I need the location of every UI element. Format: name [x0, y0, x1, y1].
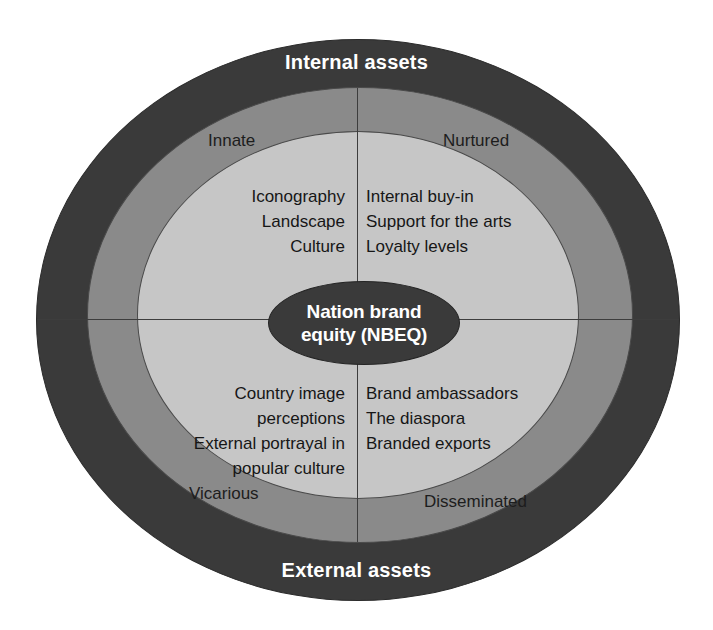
divider-horizontal-right — [458, 319, 679, 320]
list-item: Loyalty levels — [366, 234, 512, 259]
list-item: Branded exports — [366, 431, 518, 456]
item-list-innate: IconographyLandscapeCulture — [251, 184, 345, 259]
quadrant-label-innate: Innate — [208, 131, 255, 151]
quadrant-label-vicarious: Vicarious — [189, 484, 259, 504]
list-item: Culture — [251, 234, 345, 259]
item-list-vicarious: Country imageperceptionsExternal portray… — [194, 381, 345, 481]
banner-label-internal-assets: Internal assets — [0, 51, 713, 74]
center-label-line2: equity (NBEQ) — [301, 324, 427, 345]
divider-vertical-bottom — [357, 362, 358, 542]
item-list-disseminated: Brand ambassadorsThe diasporaBranded exp… — [366, 381, 518, 456]
list-item: The diaspora — [366, 406, 518, 431]
list-item: Country image — [194, 381, 345, 406]
divider-vertical-top — [357, 88, 358, 283]
quadrant-label-nurtured: Nurtured — [443, 131, 509, 151]
list-item: External portrayal in — [194, 431, 345, 456]
item-list-nurtured: Internal buy-inSupport for the artsLoyal… — [366, 184, 512, 259]
quadrant-label-disseminated: Disseminated — [424, 492, 527, 512]
divider-horizontal-left — [37, 319, 272, 320]
center-label: Nation brand equity (NBEQ) — [301, 300, 427, 346]
center-ellipse-nbeq: Nation brand equity (NBEQ) — [268, 281, 460, 365]
list-item: popular culture — [194, 456, 345, 481]
list-item: perceptions — [194, 406, 345, 431]
list-item: Internal buy-in — [366, 184, 512, 209]
list-item: Iconography — [251, 184, 345, 209]
banner-label-external-assets: External assets — [0, 559, 713, 582]
nation-brand-equity-diagram: Internal assets External assets Innate N… — [0, 0, 713, 630]
list-item: Landscape — [251, 209, 345, 234]
center-label-line1: Nation brand — [307, 301, 422, 322]
list-item: Support for the arts — [366, 209, 512, 234]
list-item: Brand ambassadors — [366, 381, 518, 406]
